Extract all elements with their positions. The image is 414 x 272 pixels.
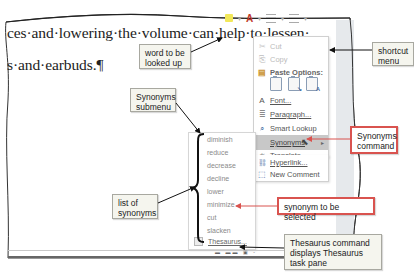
menu-item-thesaurus[interactable]: Thesaurus...	[194, 237, 247, 246]
synonym-item-lower[interactable]: lower	[207, 185, 224, 198]
thesaurus-icon	[194, 237, 203, 246]
hyperlink-icon: ⛓	[254, 159, 270, 167]
font-color-icon[interactable]: A	[246, 13, 253, 24]
menu-item-label: Thesaurus...	[208, 238, 247, 245]
menu-item-label: New Comment	[270, 170, 320, 179]
paste-keep-source-formatting-icon[interactable]	[270, 77, 282, 91]
highlight-color-icon[interactable]	[225, 14, 233, 22]
font-color-dropdown-icon[interactable]: ▾	[258, 15, 261, 22]
paste-icon: ▤	[254, 68, 270, 77]
callout-synonyms-command: Synonyms command	[350, 126, 398, 154]
mouse-pointer-icon: ⬉	[301, 137, 309, 147]
synonym-item-decline[interactable]: decline	[207, 172, 229, 185]
synonyms-submenu: diminish reduce decrease decline lower m…	[188, 132, 256, 250]
bullets-dropdown-icon[interactable]: ▾	[281, 15, 284, 22]
menu-item-label: Paragraph...	[270, 110, 311, 119]
highlight-dropdown-icon[interactable]: ▾	[238, 15, 241, 22]
numbering-icon[interactable]	[289, 14, 299, 23]
status-bar-view-controls: ▬ ▬▬ ▣ -	[215, 249, 257, 255]
font-icon: A	[254, 96, 270, 105]
paste-keep-text-only-icon[interactable]: A	[306, 77, 318, 91]
synonym-item-reduce[interactable]: reduce	[207, 146, 228, 159]
menu-item-label: Cut	[270, 42, 282, 51]
document-text-line-2[interactable]: s·and·earbuds.¶	[7, 56, 103, 74]
menu-item-label: Synonyms	[270, 138, 305, 147]
shortcut-menu: ✂ Cut ⎘ Copy ▤ Paste Options: ↘ A A Font…	[253, 36, 329, 158]
callout-shortcut-menu: shortcut menu	[372, 42, 414, 66]
synonym-item-cut[interactable]: cut	[207, 211, 216, 224]
mini-toolbar: ▾ A ▾ ▾ ▾	[225, 11, 325, 25]
search-icon: ⌕	[254, 124, 270, 134]
bullets-icon[interactable]	[266, 14, 276, 23]
callout-list-of-synonyms: list of synonyms	[112, 194, 158, 219]
paste-merge-formatting-icon[interactable]: ↘	[288, 77, 300, 91]
submenu-arrow-icon: ▸	[321, 139, 324, 146]
synonym-item-minimize[interactable]: minimize	[207, 198, 235, 211]
menu-item-new-comment[interactable]: ⬚ New Comment	[254, 167, 328, 182]
numbering-dropdown-icon[interactable]: ▾	[304, 15, 307, 22]
menu-item-synonyms[interactable]: Synonyms ⬉ ▸	[254, 135, 328, 150]
synonym-item-slacken[interactable]: slacken	[207, 224, 231, 237]
scissors-icon: ✂	[254, 42, 270, 51]
synonym-item-decrease[interactable]: decrease	[207, 159, 236, 172]
paragraph-icon: ≣	[254, 110, 270, 119]
menu-item-label: Paste Options:	[270, 68, 323, 77]
shortcut-menu-continued: ⛓ Hyperlink... ⬚ New Comment	[253, 155, 329, 182]
menu-item-label: Hyperlink...	[270, 158, 308, 167]
menu-item-label: Font...	[270, 96, 291, 105]
menu-item-paragraph[interactable]: ≣ Paragraph...	[254, 107, 328, 122]
status-bar	[8, 250, 308, 258]
callout-word-to-be-looked-up: word to be looked up	[139, 44, 191, 69]
copy-icon: ⎘	[254, 55, 270, 65]
synonym-item-diminish[interactable]: diminish	[207, 133, 233, 146]
comment-icon: ⬚	[254, 170, 270, 179]
menu-item-label: Smart Lookup	[270, 124, 317, 133]
callout-synonym-to-be-selected: synonym to be selected	[277, 197, 375, 215]
menu-item-font[interactable]: A Font...	[254, 93, 328, 108]
menu-item-label: Copy	[270, 55, 288, 64]
paste-options-row: ↘ A	[270, 77, 318, 91]
menu-item-smart-lookup[interactable]: ⌕ Smart Lookup	[254, 121, 328, 136]
callout-thesaurus-command: Thesaurus command displays Thesaurus tas…	[284, 234, 382, 270]
callout-synonyms-submenu: Synonyms submenu	[130, 88, 176, 112]
